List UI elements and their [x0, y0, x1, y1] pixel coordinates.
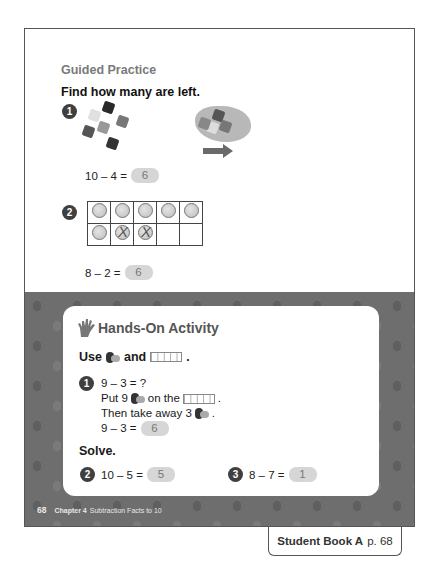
problem-number-badge: 1	[62, 104, 77, 119]
instruction-text: Find how many are left.	[61, 85, 200, 99]
arrow-right-icon	[203, 144, 233, 158]
cubes-illustration	[83, 100, 223, 160]
hands-on-activity-card: Hands-On Activity Use and . 1 9 – 3 = ? …	[63, 306, 379, 496]
counter-icon	[184, 203, 199, 218]
page-footer: 68 Chapter 4 Subtraction Facts to 10	[37, 505, 162, 515]
chapter-title: Subtraction Facts to 10	[90, 507, 162, 514]
two-color-counter-icon	[131, 393, 145, 404]
two-color-counter-icon	[106, 352, 120, 363]
ten-frame-icon	[183, 394, 215, 404]
equation-row: 10 – 4 = 6	[85, 168, 159, 183]
step-line: Put 9 on the .	[101, 391, 221, 406]
crossed-counter-icon	[138, 225, 153, 240]
activity-title: Hands-On Activity	[77, 318, 219, 338]
counter-icon	[92, 203, 107, 218]
counter-icon	[138, 203, 153, 218]
counter-icon	[161, 203, 176, 218]
equation-text: 8 – 2 =	[85, 267, 121, 279]
section-title: Guided Practice	[61, 63, 156, 77]
answer-box: 6	[141, 421, 169, 436]
equation-row: 8 – 2 = 6	[85, 265, 153, 280]
empty-cell	[180, 224, 203, 246]
problem-number-badge: 2	[80, 467, 95, 482]
counter-icon	[92, 225, 107, 240]
cube-icon	[105, 136, 119, 150]
counter-icon	[115, 203, 130, 218]
cube-icon	[115, 114, 129, 128]
step-line: 9 – 3 = ?	[101, 376, 221, 391]
equation-row: 10 – 5 = 5	[101, 467, 175, 482]
book-reference-tab: Student Book A p. 68	[268, 527, 402, 556]
cube-icon	[96, 120, 110, 134]
activity-number-badge: 1	[79, 376, 94, 391]
cube-icon	[81, 124, 95, 138]
hand-icon	[77, 318, 97, 338]
answer-box: 1	[289, 467, 317, 482]
solve-label: Solve.	[79, 444, 116, 458]
step-line: 9 – 3 = 6	[101, 421, 221, 436]
answer-box: 6	[125, 265, 153, 280]
page-number: 68	[37, 505, 46, 515]
answer-box: 6	[131, 168, 159, 183]
chapter-label: Chapter 4	[54, 507, 86, 514]
ten-frame	[87, 201, 203, 246]
bag-icon	[195, 106, 251, 142]
problem-number-badge: 3	[228, 467, 243, 482]
equation-text: 10 – 4 =	[85, 170, 127, 182]
cube-icon	[101, 100, 115, 114]
answer-box: 5	[147, 467, 175, 482]
use-materials-line: Use and .	[79, 350, 190, 364]
crossed-counter-icon	[115, 225, 130, 240]
ten-frame-icon	[150, 352, 182, 362]
problem-number-badge: 2	[62, 205, 77, 220]
student-book-page: Guided Practice Find how many are left. …	[24, 28, 415, 527]
two-color-counter-icon	[195, 408, 209, 419]
step-line: Then take away 3 .	[101, 406, 221, 421]
hands-pattern-background: Hands-On Activity Use and . 1 9 – 3 = ? …	[25, 292, 414, 527]
empty-cell	[157, 224, 180, 246]
equation-row: 8 – 7 = 1	[249, 467, 317, 482]
